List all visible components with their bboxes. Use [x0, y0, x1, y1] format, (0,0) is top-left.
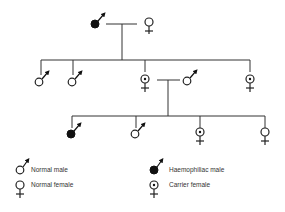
- connector-lines: [41, 24, 265, 128]
- legend-label-normal-female: Normal female: [31, 181, 73, 188]
- normal-male-icon: [68, 72, 81, 86]
- normal-female-icon: [145, 18, 153, 34]
- legend-haemophiliac-male-icon: [150, 160, 162, 174]
- normal-female-icon: [261, 128, 269, 145]
- legend-label-carrier-female: Carrier female: [169, 181, 210, 188]
- normal-male-icon: [35, 72, 48, 86]
- legend-normal-female-icon: [16, 181, 24, 198]
- carrier-female-icon: [141, 75, 149, 92]
- legend-carrier-female-icon: [150, 181, 158, 198]
- carrier-female-icon: [196, 128, 204, 145]
- legend-label-normal-male: Normal male: [31, 166, 68, 173]
- legend-label-haemophiliac-male: Haemophiliac male: [169, 166, 224, 173]
- haemophiliac-male-icon: [67, 124, 80, 138]
- haemophiliac-male-icon: [91, 14, 104, 28]
- carrier-female-icon: [246, 75, 254, 92]
- normal-male-icon: [183, 71, 196, 85]
- normal-male-icon: [131, 124, 144, 138]
- legend-normal-male-icon: [16, 160, 28, 174]
